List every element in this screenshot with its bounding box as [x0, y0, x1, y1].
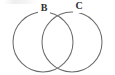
venn-diagram-figure: B C	[0, 0, 115, 75]
venn-diagram-canvas: B C	[0, 0, 115, 75]
venn-label-c: C	[75, 0, 82, 11]
venn-label-b: B	[41, 2, 48, 13]
venn-circle-b	[13, 12, 73, 72]
venn-circle-c	[42, 12, 102, 72]
